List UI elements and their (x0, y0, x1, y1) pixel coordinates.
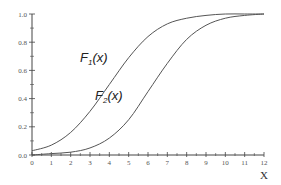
y-tick-label: 0.0 (18, 152, 27, 160)
series-label-1: F1(x) (80, 50, 108, 67)
y-tick-label: 0.8 (18, 39, 27, 47)
axes: 01234567891011120.00.20.40.60.81.0 (18, 11, 268, 168)
x-tick-label: 5 (127, 159, 131, 167)
x-tick-label: 7 (166, 159, 170, 167)
y-tick-label: 0.2 (18, 123, 27, 131)
x-tick-label: 1 (50, 159, 54, 167)
y-tick-label: 0.6 (18, 67, 27, 75)
x-tick-label: 3 (88, 159, 92, 167)
series-label-2: F2(x) (95, 88, 123, 105)
x-axis-title: X (260, 169, 268, 181)
x-tick-label: 0 (30, 159, 34, 167)
series-line-1 (32, 14, 264, 151)
x-tick-label: 12 (261, 159, 269, 167)
x-tick-label: 8 (185, 159, 189, 167)
cdf-chart: 01234567891011120.00.20.40.60.81.0 XF1(x… (0, 0, 281, 185)
x-tick-label: 9 (204, 159, 208, 167)
y-tick-label: 0.4 (18, 95, 27, 103)
x-tick-label: 4 (108, 159, 112, 167)
x-tick-label: 11 (241, 159, 248, 167)
x-tick-label: 2 (69, 159, 73, 167)
y-tick-label: 1.0 (18, 11, 27, 19)
x-tick-label: 10 (222, 159, 230, 167)
x-tick-label: 6 (146, 159, 150, 167)
series-line-2 (32, 14, 264, 155)
curves (32, 14, 264, 155)
